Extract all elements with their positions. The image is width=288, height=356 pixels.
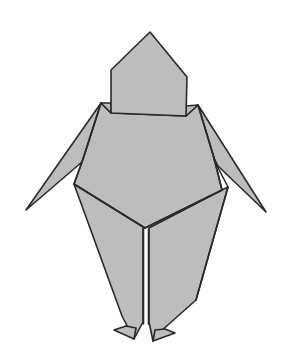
right-foot [153, 329, 175, 341]
origami-diagram [0, 0, 288, 356]
left-foot [114, 326, 136, 339]
head [111, 32, 187, 116]
origami-figure [0, 0, 288, 356]
